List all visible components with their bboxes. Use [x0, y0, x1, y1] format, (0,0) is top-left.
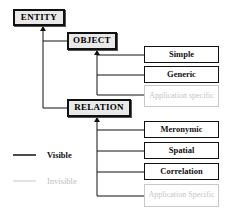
simple-node: Simple [144, 46, 219, 63]
relation-arrowhead [94, 117, 100, 122]
entity-node: ENTITY [13, 9, 65, 26]
entity-arrowhead [40, 26, 46, 31]
legend-invisible-label: Invisible [47, 176, 77, 186]
relation-application-specific-label: Application Specific [149, 191, 215, 199]
correlation-node: Correlation [144, 163, 219, 180]
simple-label: Simple [169, 50, 194, 59]
meronymic-label: Meronymic [161, 125, 203, 134]
spatial-label: Spatial [169, 146, 195, 155]
relation-application-specific-node: Application Specific [144, 184, 219, 207]
spatial-node: Spatial [144, 142, 219, 159]
entity-label: ENTITY [21, 13, 57, 22]
object-application-specific-node: Application specific [144, 85, 219, 107]
relation-label: RELATION [74, 103, 124, 112]
object-application-specific-label: Application specific [149, 92, 214, 100]
legend-visible-label: Visible [47, 150, 72, 160]
meronymic-node: Meronymic [144, 121, 219, 138]
object-label: OBJECT [73, 36, 111, 45]
generic-label: Generic [167, 70, 196, 79]
generic-node: Generic [144, 66, 219, 83]
correlation-label: Correlation [160, 167, 202, 176]
object-node: OBJECT [67, 32, 117, 50]
object-arrowhead [94, 50, 100, 55]
relation-node: RELATION [67, 99, 131, 117]
